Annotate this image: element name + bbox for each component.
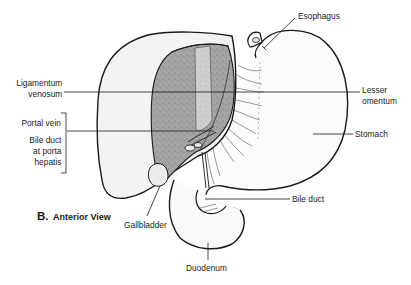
label-lesser-omentum-line2: omentum bbox=[362, 95, 397, 106]
label-ligamentum-venosum: Ligamentum venosum bbox=[16, 77, 62, 99]
gallbladder-shape bbox=[148, 164, 168, 187]
panel-title-text: Anterior View bbox=[53, 212, 111, 222]
panel-title: B. Anterior View bbox=[37, 206, 111, 224]
label-stomach: Stomach bbox=[355, 128, 388, 139]
label-portal-vein: Portal vein bbox=[21, 117, 61, 128]
label-bile-duct-porta-hepatis: Bile duct at porta hepatis bbox=[29, 134, 61, 167]
panel-letter: B. bbox=[37, 210, 49, 222]
label-ligamentum-venosum-line2: venosum bbox=[16, 88, 62, 99]
label-lesser-omentum-line1: Lesser bbox=[362, 84, 397, 95]
label-bile-duct-porta-line2: at porta bbox=[29, 145, 61, 156]
label-bile-duct-porta-line1: Bile duct bbox=[29, 134, 61, 145]
label-gallbladder: Gallbladder bbox=[124, 219, 167, 230]
label-ligamentum-venosum-line1: Ligamentum bbox=[16, 77, 62, 88]
label-bile-duct: Bile duct bbox=[292, 193, 324, 204]
label-bile-duct-porta-line3: hepatis bbox=[29, 156, 61, 167]
label-duodenum: Duodenum bbox=[186, 262, 227, 273]
anatomy-illustration bbox=[0, 0, 411, 285]
label-esophagus: Esophagus bbox=[298, 10, 340, 21]
label-lesser-omentum: Lesser omentum bbox=[362, 84, 397, 106]
